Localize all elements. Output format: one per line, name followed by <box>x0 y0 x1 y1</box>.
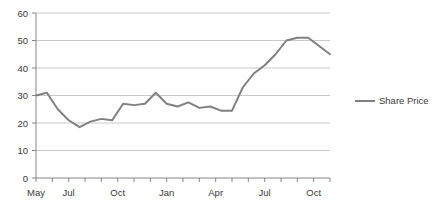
y-tick-label-50: 50 <box>17 35 28 46</box>
y-tick-label-40: 40 <box>17 63 28 74</box>
x-tick-label-may: May <box>27 187 45 198</box>
x-axis-tick-labels: MayJulOctJanAprJulOct <box>27 187 321 198</box>
x-tick-label-jul: Jul <box>259 187 271 198</box>
x-tick-label-apr: Apr <box>208 187 223 198</box>
y-tick-label-60: 60 <box>17 8 28 19</box>
data-line-share-price <box>36 38 330 127</box>
x-tick-label-jul: Jul <box>63 187 75 198</box>
y-axis-tick-labels: 0102030405060 <box>17 8 28 184</box>
x-tick-label-oct: Oct <box>110 187 125 198</box>
x-tick-label-jan: Jan <box>159 187 174 198</box>
share-price-data-line <box>36 38 330 127</box>
x-tick-marks-group <box>36 178 330 182</box>
chart-legend: Share Price <box>355 95 429 106</box>
share-price-line-chart: 0102030405060 MayJulOctJanAprJulOct Shar… <box>0 0 444 210</box>
y-tick-label-20: 20 <box>17 118 28 129</box>
y-tick-label-30: 30 <box>17 90 28 101</box>
chart-canvas: 0102030405060 MayJulOctJanAprJulOct Shar… <box>0 0 444 210</box>
legend-label-share-price: Share Price <box>379 95 429 106</box>
x-tick-label-oct: Oct <box>306 187 321 198</box>
y-tick-label-10: 10 <box>17 145 28 156</box>
y-tick-label-0: 0 <box>23 173 28 184</box>
gridlines-group <box>36 13 330 151</box>
